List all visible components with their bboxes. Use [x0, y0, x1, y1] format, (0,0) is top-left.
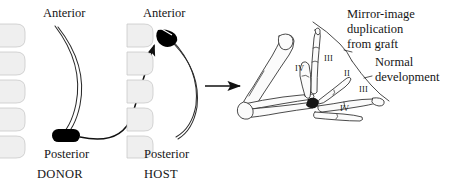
donor-posterior-label: Posterior [44, 147, 89, 162]
donor-anterior-label: Anterior [43, 6, 85, 21]
donor-embryo [0, 24, 82, 158]
host-caption: HOST [144, 167, 178, 182]
digit-shape-ii [319, 77, 351, 104]
host-anterior-label: Anterior [143, 6, 185, 21]
digit-shape-iii-mirror-tip [315, 28, 320, 35]
host-embryo [127, 24, 198, 158]
host-graft-tissue [156, 28, 177, 47]
host-limb-bud [172, 40, 198, 139]
leader-tick-normal [364, 76, 372, 78]
digit-label-iii-mirror: III [324, 53, 333, 63]
bone-humerus-head [278, 34, 293, 50]
donor-graft-tissue [52, 129, 80, 142]
donor-somite-column [0, 24, 25, 158]
digit-label-iv-mirror: IV [295, 63, 304, 73]
zpa-graft-diagram: Anterior Posterior DONOR Anterior Poster… [0, 0, 457, 190]
donor-caption: DONOR [37, 167, 83, 182]
host-posterior-label: Posterior [144, 147, 189, 162]
donor-limb-bud [55, 26, 82, 139]
digit-label-iv-normal: IV [340, 103, 349, 113]
host-somite-column [127, 24, 153, 158]
digit-shape-iii-mirror [311, 31, 320, 94]
digit-label-iii-normal: III [359, 84, 368, 94]
callout-mirror-image-duplication: Mirror-image duplication from graft [347, 7, 415, 51]
callout-normal-development: Normal development [375, 55, 440, 85]
digit-shape-iii-normal-tip [372, 98, 384, 106]
digit-label-ii-normal: II [344, 68, 350, 78]
